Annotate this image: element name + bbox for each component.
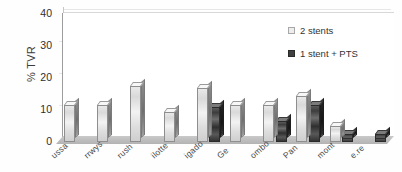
legend-swatch-icon — [288, 27, 295, 34]
bar-Pan-2-stents — [296, 96, 307, 142]
bar-ussa-2-stents — [64, 105, 75, 142]
legend: 2 stents1 stent + PTS — [288, 22, 392, 68]
legend-item-label: 1 stent + PTS — [300, 48, 358, 59]
bar-front-face — [64, 105, 75, 142]
bar-rush-2-stents — [130, 86, 141, 142]
bar-front-face — [97, 105, 108, 142]
bar-ilotte-2-stents — [164, 112, 175, 142]
legend-swatch-icon — [288, 50, 295, 57]
bar-front-face — [164, 112, 175, 142]
legend-item-1: 1 stent + PTS — [288, 45, 392, 62]
bar-front-face — [375, 134, 386, 142]
bar-Ge-2-stents — [230, 105, 241, 142]
bar-ombo-2-stents — [263, 105, 274, 142]
bar-front-face — [330, 126, 341, 142]
bar-rrwys-2-stents — [97, 105, 108, 142]
bar-igado-2-stents — [197, 88, 208, 142]
legend-item-0: 2 stents — [288, 22, 392, 39]
bar-side-face — [307, 88, 311, 138]
legend-item-label: 2 stents — [300, 25, 333, 36]
bar-front-face — [197, 88, 208, 142]
bar-front-face — [130, 86, 141, 142]
bar-chart: % TVR 403020100 ussarrwysrushilotteigado… — [0, 0, 402, 172]
bar-side-face — [208, 80, 212, 138]
bar-front-face — [296, 96, 307, 142]
bar-front-face — [230, 105, 241, 142]
bar-e.re-1-stent-pts — [375, 134, 386, 142]
bar-top-face — [164, 108, 178, 112]
bar-mont-2-stents — [330, 126, 341, 142]
bar-side-face — [141, 79, 145, 138]
bar-front-face — [263, 105, 274, 142]
